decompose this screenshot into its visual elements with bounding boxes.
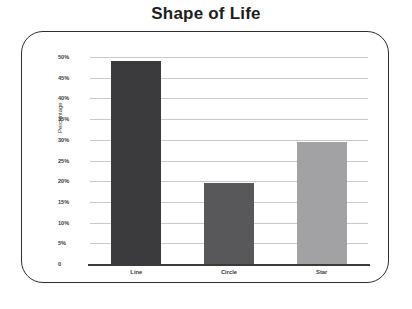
chart-page: Shape of Life Percentage 05%10%15%20%25%… [0,0,412,309]
y-tick-label: 35% [57,116,90,122]
x-tick-label-circle: Circle [221,269,237,275]
y-tick-label: 25% [57,158,90,164]
bar-line[interactable] [111,61,161,264]
y-tick-label: 10% [57,220,90,226]
y-tick-label: 50% [57,54,90,60]
x-tick-label-line: Line [130,269,142,275]
gridline [90,57,368,58]
page-title: Shape of Life [0,4,412,24]
x-tick-label-star: Star [316,269,327,275]
y-tick-label: 5% [57,240,90,246]
bar-star[interactable] [297,142,347,264]
y-tick-label: 40% [57,95,90,101]
y-tick-label: 20% [57,178,90,184]
plot-area [90,57,368,264]
y-tick-label: 15% [57,199,90,205]
bar-circle[interactable] [204,183,254,264]
y-tick-label: 30% [57,137,90,143]
x-axis-line [88,264,370,266]
y-tick-label: 45% [57,75,90,81]
y-tick-label: 0 [57,261,90,267]
y-axis-ticks: 05%10%15%20%25%30%35%40%45%50% [74,57,90,264]
